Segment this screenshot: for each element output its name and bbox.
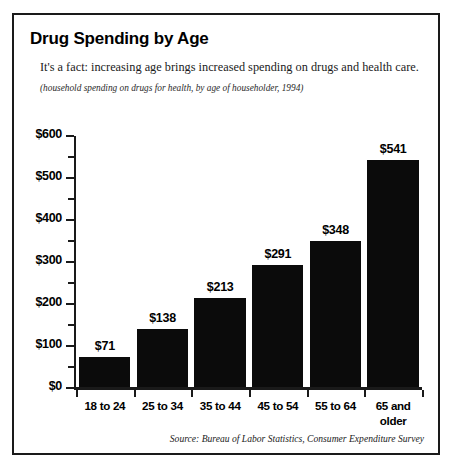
chart-header: Drug Spending by Age It's a fact: increa… [14, 15, 438, 93]
y-axis-minor-tick [68, 366, 74, 368]
x-axis-category-label: 25 to 34 [134, 399, 192, 414]
chart-subtitle: It's a fact: increasing age brings incre… [14, 49, 438, 74]
y-axis-minor-tick [68, 156, 74, 158]
y-axis-tick-mark [66, 135, 74, 137]
x-axis-category-label: 18 to 24 [76, 399, 134, 414]
bar-value-label: $213 [191, 280, 249, 294]
y-axis-minor-tick [68, 240, 74, 242]
y-axis-minor-tick [68, 282, 74, 284]
bar-value-label: $541 [364, 142, 422, 156]
bar-value-label: $138 [134, 311, 192, 325]
y-axis-tick-label: $100 [35, 337, 62, 351]
y-axis-tick-label: $400 [35, 211, 62, 225]
x-axis-tick-mark [364, 390, 366, 397]
bar-rect[interactable] [79, 357, 130, 387]
chart-figure: Drug Spending by Age It's a fact: increa… [12, 13, 440, 455]
bar-value-label: $71 [76, 339, 134, 353]
x-axis-line [74, 387, 422, 390]
bar-rect[interactable] [194, 298, 245, 387]
bar-rect[interactable] [367, 160, 418, 387]
y-axis-tick-mark [66, 303, 74, 305]
x-axis-tick-mark [76, 390, 78, 397]
chart-source: Source: Bureau of Labor Statistics, Cons… [170, 433, 424, 444]
y-axis-tick-label: $200 [35, 295, 62, 309]
page-title: Drug Spending by Age [14, 15, 438, 49]
y-axis-tick-mark [66, 387, 74, 389]
y-axis-tick-mark [66, 261, 74, 263]
x-axis-category-label: 65 andolder [364, 399, 422, 429]
y-axis-minor-tick [68, 198, 74, 200]
y-axis-tick-mark [66, 219, 74, 221]
x-axis-tick-mark [422, 390, 424, 397]
bar-series: $71$138$213$291$348$541 [76, 123, 422, 387]
bar-rect[interactable] [310, 241, 361, 387]
x-axis-tick-mark [307, 390, 309, 397]
bar-rect[interactable] [252, 265, 303, 387]
y-axis-tick-mark [66, 177, 74, 179]
y-axis-tick-label: $500 [35, 169, 62, 183]
x-axis-tick-mark [134, 390, 136, 397]
x-axis-category-label: 55 to 64 [307, 399, 365, 414]
y-axis-tick-label: $0 [49, 379, 62, 393]
bar-column[interactable]: $541 [364, 123, 422, 387]
bar-value-label: $291 [249, 247, 307, 261]
chart-note: (household spending on drugs for health,… [14, 74, 438, 93]
y-axis-minor-tick [68, 324, 74, 326]
y-axis-tick-label: $300 [35, 253, 62, 267]
bar-value-label: $348 [307, 223, 365, 237]
x-axis-category-label: 35 to 44 [191, 399, 249, 414]
bar-column[interactable]: $71 [76, 123, 134, 387]
bar-rect[interactable] [137, 329, 188, 387]
x-axis-tick-mark [191, 390, 193, 397]
bar-column[interactable]: $138 [134, 123, 192, 387]
y-axis-tick-label: $600 [35, 127, 62, 141]
bar-column[interactable]: $291 [249, 123, 307, 387]
bar-column[interactable]: $213 [191, 123, 249, 387]
x-axis-tick-mark [249, 390, 251, 397]
bar-column[interactable]: $348 [307, 123, 365, 387]
plot-area: $0$100$200$300$400$500$600 $71$138$213$2… [14, 123, 440, 455]
y-axis-tick-mark [66, 345, 74, 347]
x-axis-category-label: 45 to 54 [249, 399, 307, 414]
